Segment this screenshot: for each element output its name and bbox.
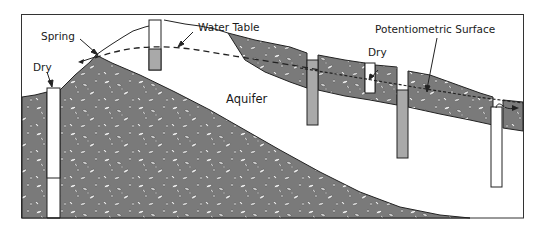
label-spring: Spring <box>41 30 75 42</box>
water-table-well-water <box>149 49 161 70</box>
confined-well-2 <box>397 90 408 158</box>
flowing-artesian-well <box>491 107 502 187</box>
label-dry-left: Dry <box>33 61 52 73</box>
label-dry-right: Dry <box>368 46 387 58</box>
dry-well-left <box>47 88 60 178</box>
groundwater-diagram: Spring Dry Water Table Aquifer Dry Poten… <box>0 0 545 231</box>
label-water-table: Water Table <box>198 21 260 33</box>
label-aquifer: Aquifer <box>226 92 268 106</box>
label-potentiometric-surface: Potentiometric Surface <box>375 23 495 35</box>
